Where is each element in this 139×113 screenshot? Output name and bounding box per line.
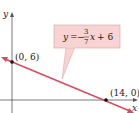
callout-x: x: [90, 32, 95, 42]
y-axis-arrow-icon: [10, 12, 14, 17]
callout-pointer: [62, 47, 75, 79]
callout-numerator: 3: [84, 28, 88, 36]
callout-denominator: 7: [84, 38, 88, 46]
callout-y: y: [62, 32, 69, 42]
point-label-14-0: (14, 0): [110, 88, 139, 98]
point-0-6: [10, 60, 14, 64]
point-14-0: [104, 98, 108, 102]
callout-rest: + 6: [97, 32, 113, 42]
line-series: [5, 59, 130, 111]
line-arrow-left-icon: [1, 57, 8, 62]
x-axis-label: x: [132, 103, 137, 113]
point-label-0-6: (0, 6): [15, 52, 39, 62]
x-axis-arrow-icon: [133, 98, 138, 102]
y-axis-label: y: [2, 9, 9, 19]
equation-callout: y = − 3 7 x + 6: [54, 25, 120, 48]
line-chart: y x (0, 6) (14, 0) y = − 3 7 x + 6: [0, 0, 139, 113]
